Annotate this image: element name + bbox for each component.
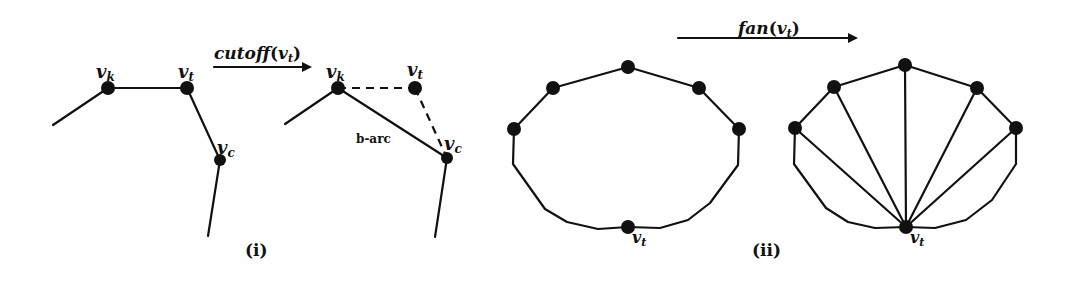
label-vc: vc — [217, 137, 235, 160]
panel-i-before: vk vt vc — [53, 61, 235, 236]
chain-edges — [285, 88, 447, 237]
node — [970, 81, 984, 95]
panel-i-after: vk vt vc b-arc — [285, 59, 462, 237]
label-vc: vc — [444, 133, 462, 156]
arrowhead-icon — [848, 33, 858, 43]
fan-arrow: fan(vt) — [678, 18, 858, 43]
fan-label: fan(vt) — [737, 18, 800, 40]
diagram-canvas: vk vt vc cutoff(vt) vk vt vc b-arc (i) f… — [0, 0, 1070, 286]
label-vt: vt — [407, 59, 423, 82]
caption-i: (i) — [245, 240, 268, 260]
node — [732, 122, 746, 136]
arrowhead-icon — [302, 62, 312, 72]
cutoff-label: cutoff(vt) — [214, 43, 301, 65]
b-arc-label: b-arc — [356, 132, 391, 146]
node — [827, 80, 841, 94]
node — [546, 81, 560, 95]
cutoff-arrow: cutoff(vt) — [214, 43, 312, 72]
node — [692, 81, 706, 95]
node — [898, 58, 912, 72]
node — [788, 121, 802, 135]
node — [621, 60, 635, 74]
caption-ii: (ii) — [752, 240, 781, 260]
panel-ii-after: vt — [788, 58, 1023, 249]
label-apex: vt — [910, 228, 924, 249]
chain-edges — [53, 88, 220, 236]
label-vk: vk — [96, 61, 115, 84]
panel-ii-before: vt — [507, 60, 746, 249]
node-vt — [408, 81, 422, 95]
label-vt: vt — [178, 61, 194, 84]
node — [1009, 121, 1023, 135]
label-vk: vk — [326, 61, 345, 84]
label-apex: vt — [632, 228, 646, 249]
node — [507, 122, 521, 136]
